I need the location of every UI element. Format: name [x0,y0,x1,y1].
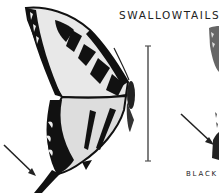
illustration-canvas [0,0,219,193]
tiger-swallowtail-illustration [26,8,135,193]
pointer-arrow [4,145,36,176]
scale-bar [145,46,151,161]
pointer-arrow [181,114,214,145]
